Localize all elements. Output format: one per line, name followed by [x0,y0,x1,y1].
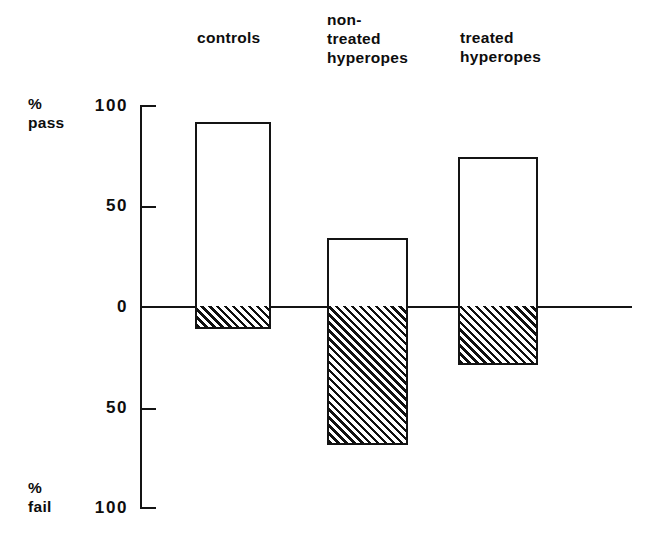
category-label-non-treated-hyperopes: non- treated hyperopes [327,10,457,68]
y-tick-mark-100-fail [140,507,156,509]
chart-figure: controls non- treated hyperopes treated … [0,0,649,543]
y-tick-label-100-pass: 100 [72,96,128,116]
bar-fail-treated-hyperopes [458,306,538,365]
y-axis-caption-pass: % pass [28,95,65,133]
y-tick-mark-50-fail [140,408,156,410]
y-tick-label-0: 0 [72,297,128,317]
y-tick-label-50-fail: 50 [72,398,128,418]
category-label-treated-hyperopes: treated hyperopes [460,28,610,66]
bar-pass-controls [195,122,271,307]
y-tick-mark-100-pass [140,105,156,107]
category-label-controls: controls [197,28,327,47]
bar-fail-controls [195,306,271,329]
bar-pass-non-treated-hyperopes [327,238,408,307]
y-axis-caption-fail: % fail [28,479,52,517]
bar-fail-non-treated-hyperopes [327,306,408,445]
y-tick-label-100-fail: 100 [72,498,128,518]
y-tick-mark-50-pass [140,206,156,208]
bar-pass-treated-hyperopes [458,157,538,307]
y-tick-label-50-pass: 50 [72,196,128,216]
